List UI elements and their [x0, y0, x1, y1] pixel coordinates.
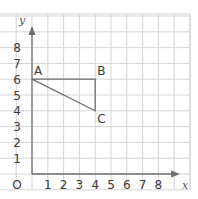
- point-label-c: C: [97, 112, 105, 126]
- y-axis-label: y: [18, 14, 26, 27]
- y-tick-label: 4: [13, 104, 21, 118]
- x-axis-label: x: [182, 179, 189, 192]
- y-tick-label: 3: [13, 120, 21, 134]
- x-tick-label: 2: [60, 178, 68, 192]
- x-tick-label: 4: [91, 178, 99, 192]
- y-tick-label: 6: [13, 73, 21, 87]
- y-tick-label: 5: [13, 89, 21, 103]
- origin-label: O: [12, 178, 21, 192]
- point-label-b: B: [97, 64, 105, 78]
- y-tick-label: 1: [13, 152, 21, 166]
- y-tick-label: 2: [13, 136, 21, 150]
- y-tick-label: 7: [13, 57, 21, 71]
- x-tick-label: 7: [139, 178, 147, 192]
- y-tick-label: 8: [13, 41, 21, 55]
- x-tick-label: 8: [155, 178, 163, 192]
- x-tick-label: 1: [44, 178, 52, 192]
- axes: [29, 26, 181, 178]
- x-tick-label: 5: [107, 178, 115, 192]
- x-tick-label: 6: [123, 178, 131, 192]
- y-axis-arrow-icon: [29, 26, 36, 35]
- point-label-a: A: [34, 64, 43, 78]
- x-axis-arrow-icon: [171, 171, 180, 178]
- coordinate-grid-diagram: 1234567812345678 ABC y x O: [0, 0, 198, 199]
- x-tick-label: 3: [76, 178, 84, 192]
